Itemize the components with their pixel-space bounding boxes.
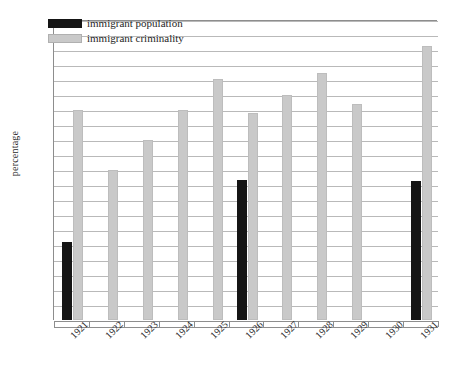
bar-immigrant-population xyxy=(62,242,72,320)
bar-immigrant-criminality xyxy=(213,79,223,321)
legend-swatch-icon xyxy=(48,34,82,43)
bar-group xyxy=(202,20,237,320)
bar-group xyxy=(376,20,411,320)
bar-group xyxy=(341,20,376,320)
x-axis-tick xyxy=(438,321,439,327)
legend-swatch-icon xyxy=(48,19,82,28)
bar-group xyxy=(62,20,97,320)
x-axis-tick-label: 1929 xyxy=(348,319,370,341)
bar-group xyxy=(306,20,341,320)
figure-bar-chart: percentage 19211922192319241925192619271… xyxy=(0,0,453,371)
bar-immigrant-criminality xyxy=(178,110,188,320)
bar-immigrant-criminality xyxy=(422,46,432,321)
bar-immigrant-criminality xyxy=(352,104,362,320)
x-axis-tick-label: 1930 xyxy=(383,319,405,341)
x-axis-tick xyxy=(333,321,334,327)
bar-immigrant-population xyxy=(411,181,421,321)
x-axis-tick-label: 1923 xyxy=(138,319,160,341)
plot-area: 1921192219231924192519261927192819291930… xyxy=(53,20,437,320)
legend-item-immigrant-criminality: immigrant criminality xyxy=(48,32,184,45)
x-axis-tick xyxy=(298,321,299,327)
x-axis-tick-label: 1931 xyxy=(418,319,440,341)
bar-group xyxy=(97,20,132,320)
x-axis-tick xyxy=(403,321,404,327)
bar-group xyxy=(132,20,167,320)
bar-immigrant-population xyxy=(237,180,247,320)
x-axis-tick xyxy=(54,321,55,327)
x-axis-tick xyxy=(194,321,195,327)
bar-immigrant-criminality xyxy=(317,73,327,320)
legend-label: immigrant population xyxy=(87,18,183,29)
bar-immigrant-criminality xyxy=(108,170,118,320)
legend-item-immigrant-population: immigrant population xyxy=(48,17,184,30)
x-axis-tick-label: 1922 xyxy=(103,319,125,341)
bar-group xyxy=(237,20,272,320)
bar-group xyxy=(271,20,306,320)
bar-immigrant-criminality xyxy=(73,110,83,320)
x-axis-tick-label: 1921 xyxy=(68,319,90,341)
legend-label: immigrant criminality xyxy=(87,33,184,44)
x-axis-tick xyxy=(159,321,160,327)
x-axis-tick xyxy=(229,321,230,327)
x-axis-tick-label: 1928 xyxy=(313,319,335,341)
x-axis-tick xyxy=(263,321,264,327)
y-axis-title: percentage xyxy=(9,109,20,199)
bar-immigrant-criminality xyxy=(282,95,292,320)
x-axis-tick xyxy=(124,321,125,327)
x-axis-tick xyxy=(368,321,369,327)
x-axis-tick-label: 1924 xyxy=(173,319,195,341)
bar-group xyxy=(167,20,202,320)
x-axis-tick-label: 1925 xyxy=(208,319,230,341)
gridline xyxy=(54,321,438,322)
x-axis-tick xyxy=(89,321,90,327)
chart-legend: immigrant population immigrant criminali… xyxy=(48,17,184,47)
bar-group xyxy=(411,20,446,320)
x-axis-tick-label: 1926 xyxy=(243,319,265,341)
x-axis-tick-label: 1927 xyxy=(278,319,300,341)
bar-immigrant-criminality xyxy=(143,140,153,320)
bar-immigrant-criminality xyxy=(248,113,258,320)
